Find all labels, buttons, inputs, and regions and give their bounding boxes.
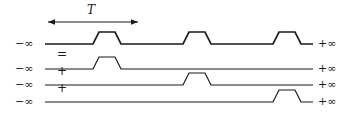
waveform-canvas <box>0 0 355 116</box>
row-term-1-left-label: −∞ <box>15 63 33 74</box>
operator-equals: = <box>57 48 67 60</box>
period-arrow <box>48 19 138 25</box>
operator-plus-2: + <box>57 82 67 94</box>
waveform-row-term-3 <box>45 90 313 102</box>
row-term-2-right-label: +∞ <box>318 79 336 90</box>
waveform-row-sum <box>45 32 313 44</box>
pulse-train-figure: T −∞ +∞ = −∞ +∞ + −∞ +∞ + −∞ +∞ <box>0 0 355 116</box>
waveform-row-term-1 <box>45 57 313 69</box>
row-term-3-left-label: −∞ <box>15 96 33 107</box>
row-sum-left-label: −∞ <box>15 38 33 49</box>
period-label: T <box>87 4 95 16</box>
row-sum-right-label: +∞ <box>318 38 336 49</box>
operator-plus-1: + <box>57 65 67 77</box>
period-arrow-head-right <box>131 19 138 25</box>
row-term-1-right-label: +∞ <box>318 63 336 74</box>
row-term-2-left-label: −∞ <box>15 79 33 90</box>
waveform-row-term-2 <box>45 73 313 85</box>
row-term-3-right-label: +∞ <box>318 96 336 107</box>
period-arrow-head-left <box>48 19 55 25</box>
